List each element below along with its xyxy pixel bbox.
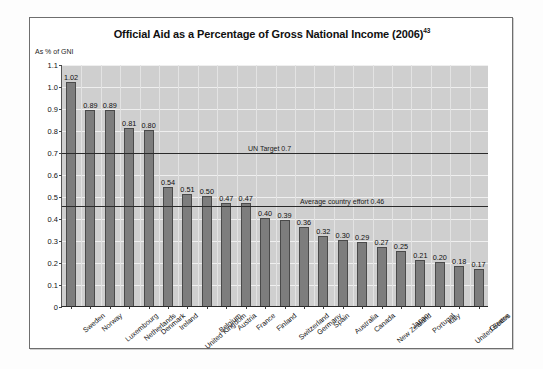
bar-slot: 0.89	[81, 65, 100, 306]
y-axis-tick-mark	[59, 307, 62, 308]
bar-value-label: 0.81	[122, 119, 136, 128]
bar-value-label: 0.47	[219, 194, 233, 203]
x-axis-tick-mark	[149, 306, 150, 309]
chart-title-footnote: 43	[423, 27, 430, 34]
x-axis-tick-mark	[459, 306, 460, 309]
bar-value-label: 0.29	[355, 233, 369, 242]
x-axis-tick-mark	[187, 306, 188, 309]
y-axis-tick-label: 0.5	[48, 193, 58, 202]
bar-value-label: 0.54	[161, 178, 175, 187]
bar-value-label: 0.50	[200, 187, 214, 196]
x-axis-category-label: Greece	[488, 311, 512, 333]
bar-value-label: 0.27	[374, 238, 388, 247]
bar-slot: 0.50	[198, 65, 217, 306]
bar-value-label: 1.02	[64, 73, 78, 82]
bar-slot: 0.36	[295, 65, 314, 306]
bar-slot: 0.47	[217, 65, 236, 306]
bar-slot: 0.80	[140, 65, 159, 306]
bar[interactable]: 0.89	[105, 110, 115, 306]
x-axis-tick-mark	[168, 306, 169, 309]
x-axis-tick-mark	[304, 306, 305, 309]
bar-slot: 0.32	[314, 65, 333, 306]
bar-slot: 0.51	[178, 65, 197, 306]
bar[interactable]: 0.27	[377, 247, 387, 306]
bar-value-label: 0.20	[433, 253, 447, 262]
bar[interactable]: 0.30	[338, 240, 348, 306]
bar-slot: 0.25	[392, 65, 411, 306]
bar-slot: 1.02	[62, 65, 81, 306]
x-axis-tick-mark	[226, 306, 227, 309]
bar-value-label: 0.21	[413, 251, 427, 260]
x-axis-tick-mark	[343, 306, 344, 309]
x-axis-tick-mark	[129, 306, 130, 309]
bar-value-label: 0.47	[239, 194, 253, 203]
bar[interactable]: 0.32	[318, 236, 328, 306]
reference-line-label: UN Target 0.7	[248, 145, 291, 153]
y-axis-tick-label: 0	[54, 303, 58, 312]
bar[interactable]: 1.02	[66, 82, 76, 306]
reference-line	[62, 206, 488, 207]
x-axis-tick-mark	[285, 306, 286, 309]
x-axis-tick-mark	[265, 306, 266, 309]
bar-value-label: 0.36	[297, 218, 311, 227]
chart-title: Official Aid as a Percentage of Gross Na…	[30, 27, 514, 40]
bar[interactable]: 0.25	[396, 251, 406, 306]
bar[interactable]: 0.47	[221, 203, 231, 306]
x-axis-category-label: France	[255, 311, 278, 332]
bar[interactable]: 0.40	[260, 218, 270, 306]
x-axis-tick-mark	[246, 306, 247, 309]
x-axis-tick-mark	[382, 306, 383, 309]
x-axis-tick-mark	[440, 306, 441, 309]
bar-slot: 0.81	[120, 65, 139, 306]
bar[interactable]: 0.39	[280, 220, 290, 306]
bar-slot: 0.30	[334, 65, 353, 306]
bar-value-label: 0.18	[452, 257, 466, 266]
y-axis-tick-label: 0.2	[48, 259, 58, 268]
bar[interactable]: 0.17	[474, 269, 484, 306]
bar-value-label: 0.89	[103, 101, 117, 110]
bar[interactable]: 0.81	[124, 128, 134, 306]
x-axis-tick-mark	[420, 306, 421, 309]
bar-slot: 0.29	[353, 65, 372, 306]
bar[interactable]: 0.50	[202, 196, 212, 306]
y-axis-tick-label: 0.4	[48, 215, 58, 224]
bar[interactable]: 0.51	[182, 194, 192, 306]
bar-value-label: 0.40	[258, 209, 272, 218]
bar-value-label: 0.17	[471, 260, 485, 269]
bar-slot: 0.39	[276, 65, 295, 306]
bar-value-label: 0.32	[316, 227, 330, 236]
y-axis-tick-label: 0.8	[48, 127, 58, 136]
bar[interactable]: 0.18	[454, 266, 464, 306]
x-axis-tick-mark	[207, 306, 208, 309]
x-axis-category-label: Finland	[274, 311, 298, 333]
plot-area: 00.10.20.30.40.50.60.70.80.91.01.11.020.…	[61, 65, 488, 307]
bar[interactable]: 0.20	[435, 262, 445, 306]
chart-frame: Official Aid as a Percentage of Gross Na…	[29, 17, 513, 349]
bar-value-label: 0.30	[336, 231, 350, 240]
bar[interactable]: 0.36	[299, 227, 309, 306]
bar-value-label: 0.51	[180, 185, 194, 194]
bar-slot: 0.21	[411, 65, 430, 306]
screenshot-page: Official Aid as a Percentage of Gross Na…	[0, 0, 543, 369]
bar-slot: 0.17	[470, 65, 489, 306]
bar[interactable]: 0.89	[85, 110, 95, 306]
y-axis-tick-label: 1.1	[48, 61, 58, 70]
reference-line-label: Average country effort 0.46	[300, 198, 384, 206]
x-axis-tick-mark	[323, 306, 324, 309]
bar[interactable]: 0.21	[415, 260, 425, 306]
bar-slot: 0.20	[431, 65, 450, 306]
bar-slot: 0.54	[159, 65, 178, 306]
bar-value-label: 0.80	[142, 121, 156, 130]
bar-value-label: 0.39	[277, 211, 291, 220]
bar[interactable]: 0.47	[241, 203, 251, 306]
y-axis-tick-label: 0.6	[48, 171, 58, 180]
x-axis-tick-mark	[362, 306, 363, 309]
reference-line	[62, 153, 488, 154]
x-axis-tick-mark	[90, 306, 91, 309]
y-axis-tick-label: 1.0	[48, 83, 58, 92]
bar-slot: 0.40	[256, 65, 275, 306]
x-axis-tick-mark	[71, 306, 72, 309]
bar[interactable]: 0.80	[144, 130, 154, 306]
bar[interactable]: 0.29	[357, 242, 367, 306]
y-axis-tick-label: 0.9	[48, 105, 58, 114]
